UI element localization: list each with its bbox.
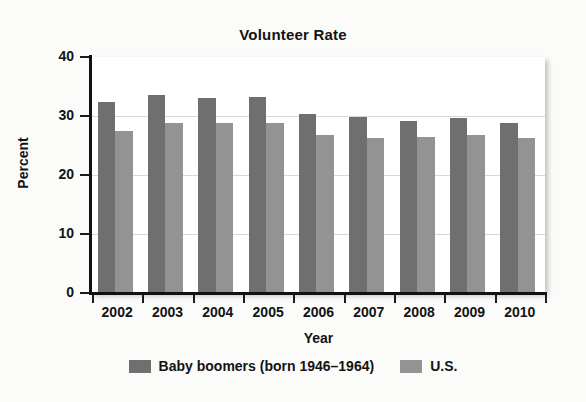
y-axis-tick — [80, 174, 89, 176]
bar — [299, 114, 316, 293]
legend-label: Baby boomers (born 1946–1964) — [159, 358, 375, 374]
legend-entry: U.S. — [400, 358, 457, 374]
x-axis-line — [89, 292, 547, 295]
bar — [400, 121, 417, 293]
y-axis-tick-label: 0 — [14, 284, 74, 300]
legend-swatch-icon — [400, 360, 422, 373]
bar — [266, 123, 283, 293]
x-axis-tick-label: 2007 — [344, 304, 394, 320]
x-axis-tick — [142, 295, 144, 303]
y-axis-tick — [80, 56, 89, 58]
x-axis-tick — [444, 295, 446, 303]
x-axis-tick — [243, 295, 245, 303]
bar — [367, 138, 384, 293]
bar — [500, 123, 517, 293]
bar — [316, 135, 333, 293]
bar — [249, 97, 266, 293]
chart-title: Volunteer Rate — [0, 26, 586, 43]
x-axis-tick — [495, 295, 497, 303]
x-axis-tick — [344, 295, 346, 303]
x-axis-tick — [92, 295, 94, 303]
bar — [98, 102, 115, 293]
legend-label: U.S. — [430, 358, 457, 374]
x-axis-tick-label: 2004 — [193, 304, 243, 320]
bar — [198, 98, 215, 293]
x-axis-title: Year — [92, 330, 545, 346]
x-axis-tick-label: 2005 — [243, 304, 293, 320]
bar — [417, 137, 434, 293]
y-axis-tick — [80, 115, 89, 117]
y-axis-line — [89, 55, 92, 295]
plot-area — [92, 57, 545, 293]
bar — [216, 123, 233, 293]
x-axis-tick — [193, 295, 195, 303]
bar — [115, 131, 132, 293]
x-axis-tick-label: 2009 — [444, 304, 494, 320]
x-axis-tick-label: 2003 — [142, 304, 192, 320]
bar — [148, 95, 165, 293]
bar — [450, 118, 467, 293]
y-axis-tick-label: 10 — [14, 225, 74, 241]
x-axis-tick — [545, 295, 547, 303]
legend-swatch-icon — [129, 360, 151, 373]
x-axis-tick — [293, 295, 295, 303]
x-axis-tick-label: 2006 — [293, 304, 343, 320]
bar — [349, 117, 366, 293]
y-axis-tick — [80, 233, 89, 235]
x-axis-tick — [394, 295, 396, 303]
x-axis-tick-label: 2010 — [495, 304, 545, 320]
bar — [518, 138, 535, 293]
bar — [467, 135, 484, 293]
chart-figure: Volunteer Rate 010203040 200220032004200… — [0, 0, 586, 402]
y-axis-tick — [80, 292, 89, 294]
x-axis-tick-label: 2008 — [394, 304, 444, 320]
x-axis-tick-label: 2002 — [92, 304, 142, 320]
y-axis-title: Percent — [15, 118, 31, 208]
chart-legend: Baby boomers (born 1946–1964)U.S. — [0, 358, 586, 374]
bar — [165, 123, 182, 293]
y-axis-tick-label: 40 — [14, 48, 74, 64]
legend-entry: Baby boomers (born 1946–1964) — [129, 358, 375, 374]
